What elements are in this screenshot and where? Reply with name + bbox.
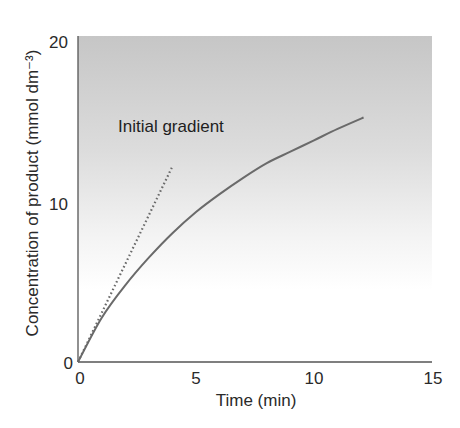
y-tick-0: 0: [64, 354, 73, 373]
y-tick-10: 10: [49, 195, 68, 214]
x-tick-15: 15: [424, 369, 443, 388]
x-tick-10: 10: [305, 369, 324, 388]
initial-gradient-label: Initial gradient: [118, 117, 224, 136]
y-axis-title: Concentration of product (mmol dm⁻³): [23, 50, 42, 337]
y-tick-20: 20: [49, 33, 68, 52]
plot-background: [78, 36, 432, 362]
x-tick-0: 0: [75, 369, 84, 388]
chart: 20 10 0 0 5 10 15 Time (min) Concentrati…: [0, 0, 460, 428]
x-axis-title: Time (min): [216, 391, 297, 410]
x-tick-5: 5: [191, 369, 200, 388]
